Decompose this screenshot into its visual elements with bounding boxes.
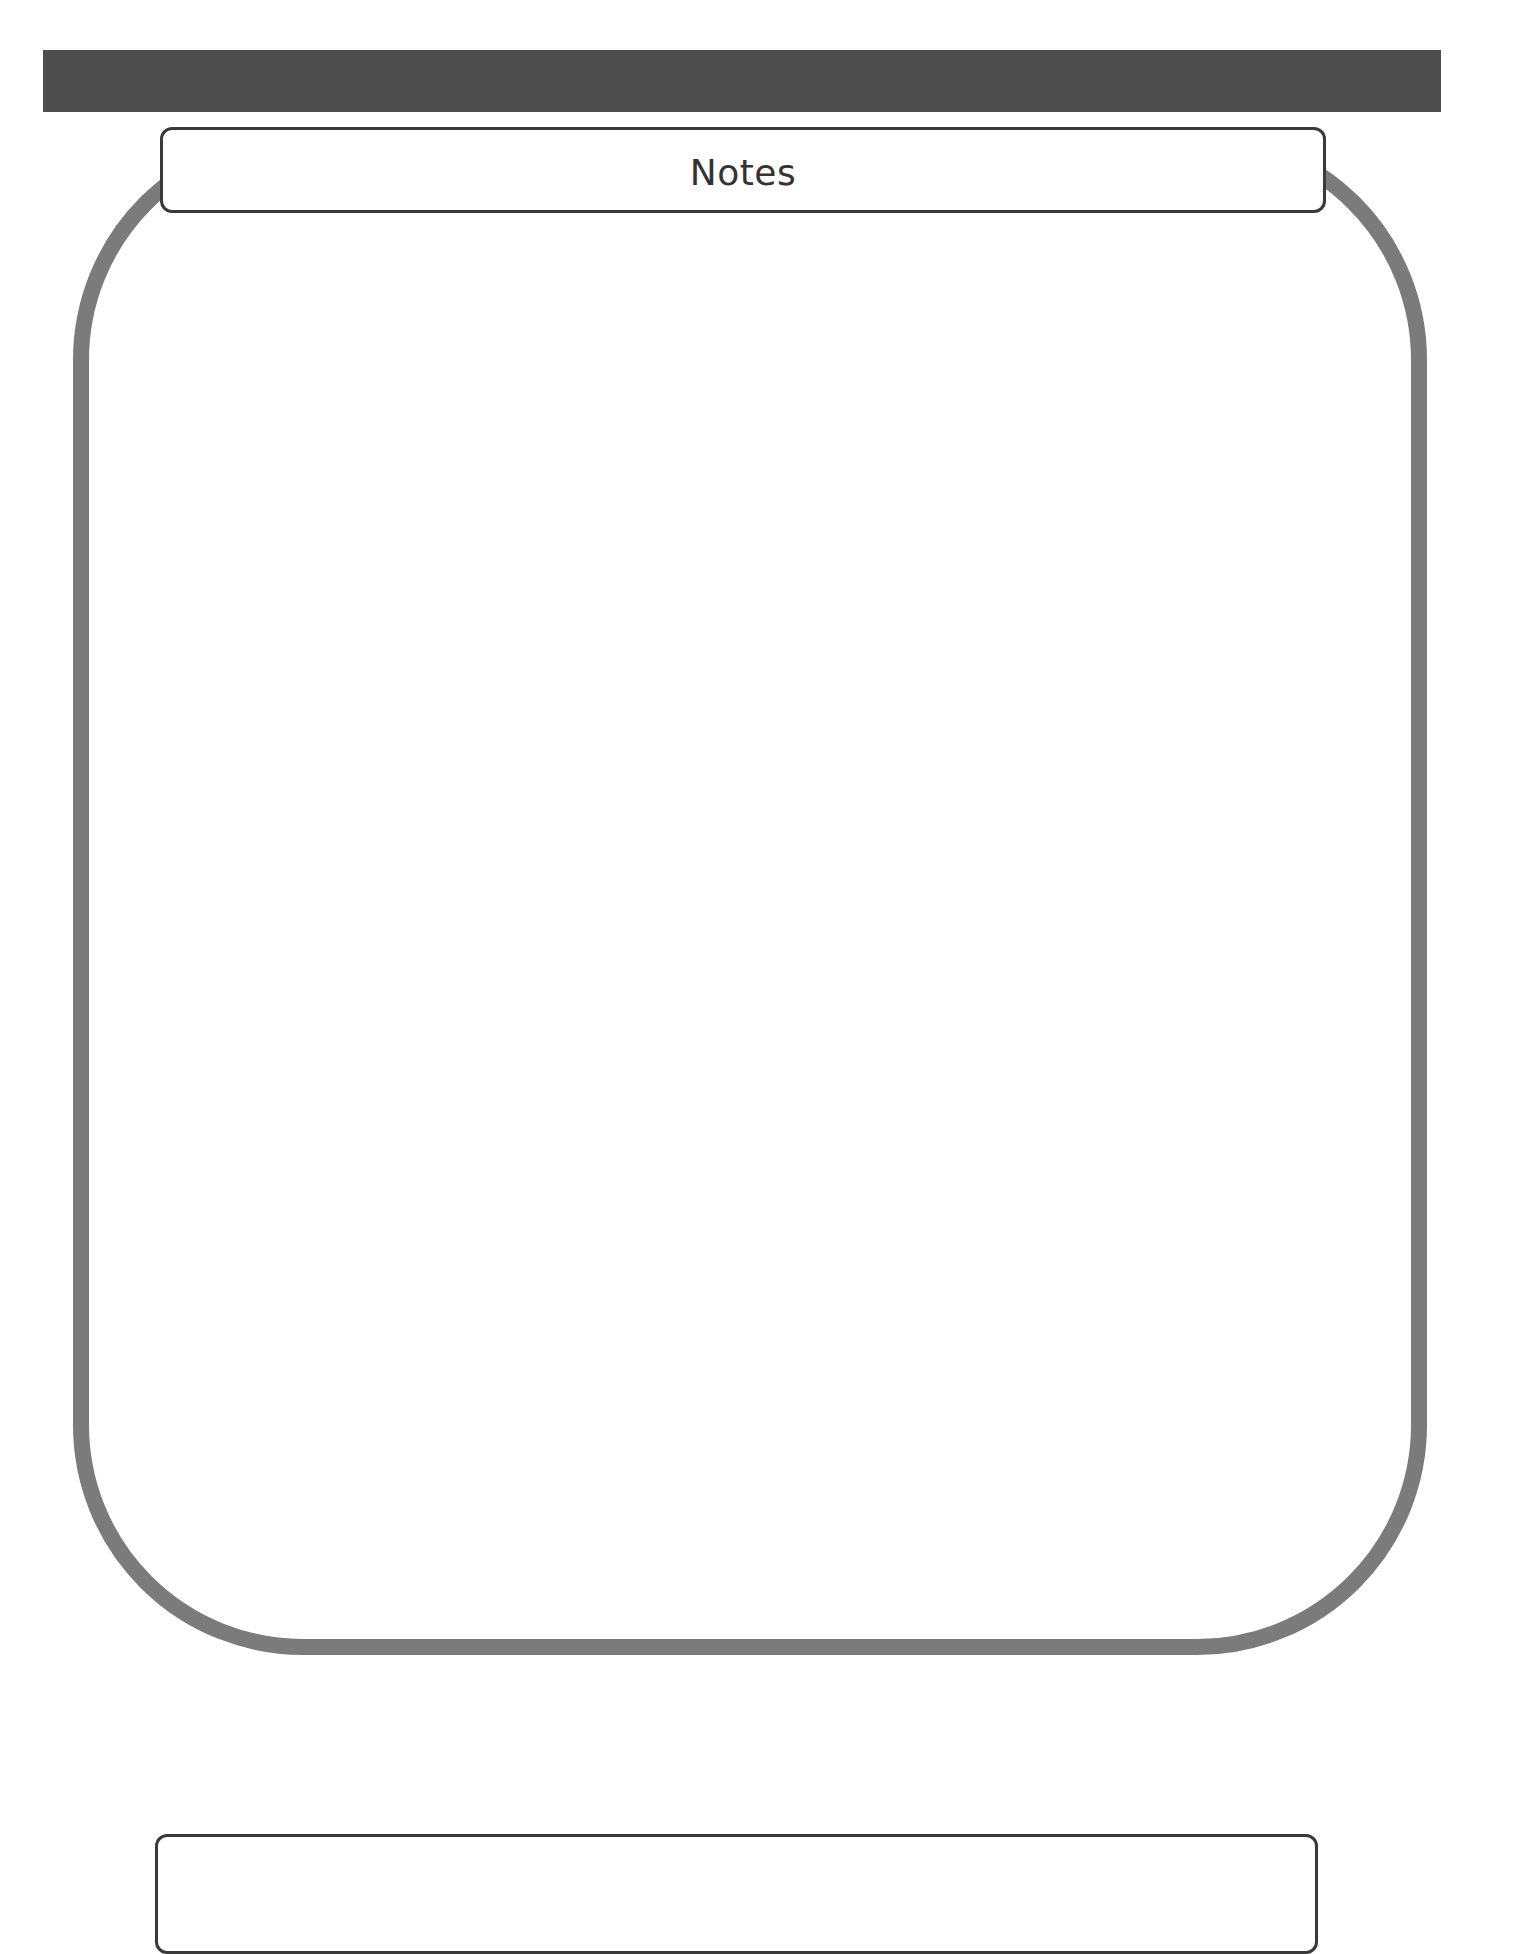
notes-title: Notes (690, 152, 796, 193)
bottom-text-box[interactable] (155, 1834, 1318, 1954)
header-bar (43, 50, 1441, 112)
notes-title-tab: Notes (160, 127, 1326, 213)
notes-area[interactable] (73, 130, 1427, 1655)
